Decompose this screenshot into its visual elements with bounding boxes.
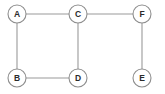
node-f-circle <box>133 5 151 23</box>
node-b-circle <box>8 69 26 87</box>
node-e: E <box>133 69 151 87</box>
edge-layer <box>17 14 142 78</box>
node-a: A <box>8 5 26 23</box>
node-d-circle <box>69 69 87 87</box>
node-e-circle <box>133 69 151 87</box>
node-c: C <box>69 5 87 23</box>
node-layer: A C F B D E <box>8 5 151 87</box>
node-b: B <box>8 69 26 87</box>
node-f: F <box>133 5 151 23</box>
graph-svg: A C F B D E <box>0 0 165 94</box>
node-d: D <box>69 69 87 87</box>
node-a-circle <box>8 5 26 23</box>
graph-diagram: A C F B D E <box>0 0 165 94</box>
node-c-circle <box>69 5 87 23</box>
